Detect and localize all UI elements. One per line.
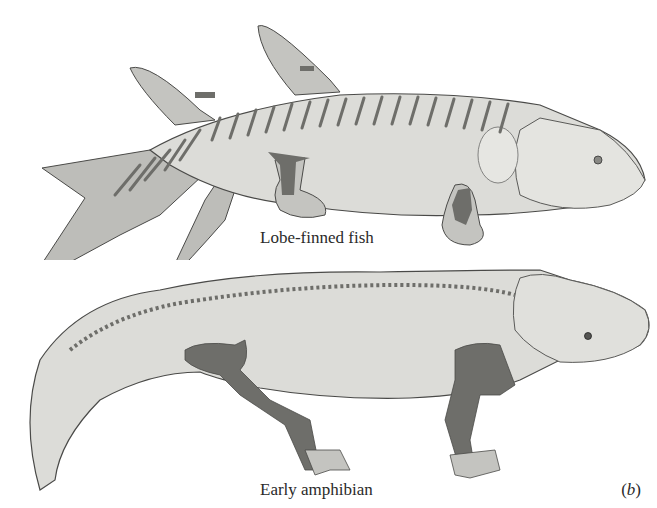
amphibian-fore-foot	[450, 450, 500, 478]
panel-label-close: )	[635, 480, 641, 499]
figure-evolution-comparison: Lobe-finned fish Early amphibian (b)	[0, 0, 657, 508]
amphibian-eye-dot	[585, 333, 592, 340]
amphibian-fore-limb-bones	[445, 343, 515, 470]
caption-early-amphibian: Early amphibian	[260, 480, 373, 500]
panel-label: (b)	[621, 480, 641, 500]
early-amphibian-illustration	[0, 0, 657, 508]
amphibian-hind-foot	[305, 450, 350, 475]
